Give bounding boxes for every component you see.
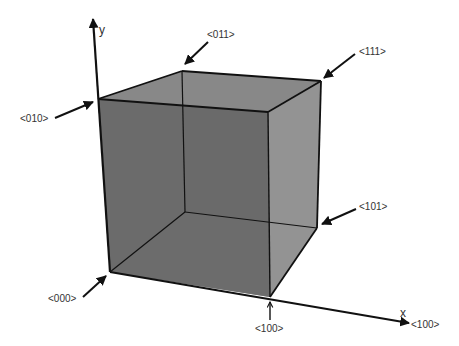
label-x-axis-100: <100> [411, 319, 440, 330]
arrow-010 [55, 102, 93, 118]
arrow-101 [322, 209, 356, 224]
arrow-000 [83, 276, 106, 297]
y-axis-label: y [99, 23, 105, 37]
x-axis-label: x [400, 306, 406, 320]
arrow-111 [324, 54, 355, 78]
label-100: <100> [255, 323, 284, 334]
cube-right-face [268, 81, 321, 297]
arrow-011 [185, 42, 208, 64]
cube-front-face [98, 99, 270, 297]
label-010: <010> [20, 113, 49, 124]
label-011: <011> [207, 29, 235, 40]
cube-diagram: y x <011> <111> <010> <000> <101> <100> … [0, 0, 459, 346]
label-111: <111> [359, 46, 386, 57]
label-101: <101> [359, 201, 388, 212]
label-000: <000> [48, 293, 77, 304]
